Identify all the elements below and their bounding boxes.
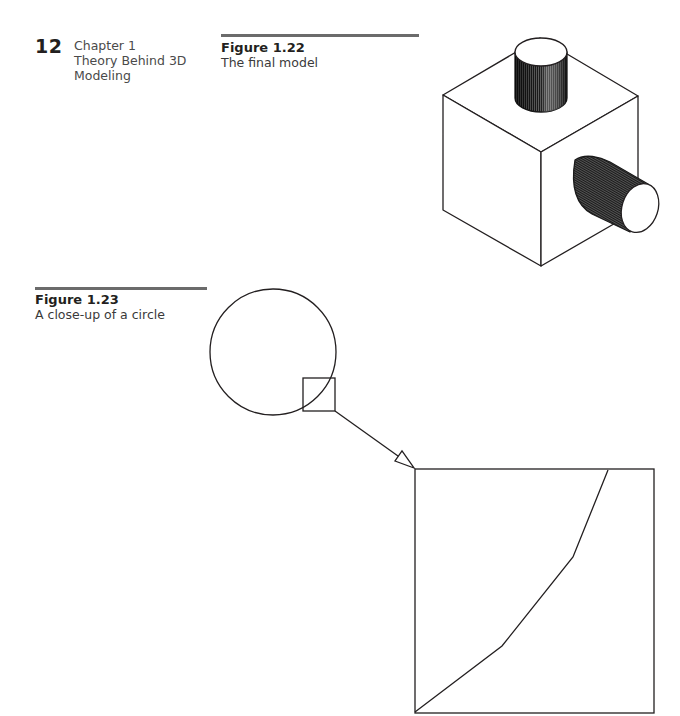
cube-model (443, 38, 665, 266)
magnify-arrow-line (335, 411, 405, 461)
top-cylinder (515, 38, 567, 112)
magnified-arc-segments (415, 470, 608, 712)
figure-illustrations (0, 0, 680, 716)
magnified-square (415, 469, 654, 713)
circle-closeup (210, 289, 654, 713)
magnify-arrowhead (395, 451, 414, 468)
circle-outline (210, 289, 336, 415)
